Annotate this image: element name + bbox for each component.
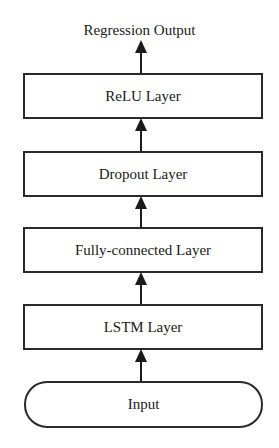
input-label: Input bbox=[128, 396, 160, 413]
arrow-up-icon bbox=[135, 40, 147, 73]
dropout-layer-label: Dropout Layer bbox=[99, 166, 188, 183]
relu-layer-label: ReLU Layer bbox=[105, 88, 180, 105]
arrow-up-icon bbox=[135, 196, 147, 227]
arrow-up-icon bbox=[135, 118, 147, 151]
input-node: Input bbox=[24, 381, 263, 428]
lstm-layer-box: LSTM Layer bbox=[23, 304, 263, 350]
fully-connected-layer-box: Fully-connected Layer bbox=[23, 227, 263, 273]
dropout-layer-box: Dropout Layer bbox=[23, 151, 263, 197]
fully-connected-layer-label: Fully-connected Layer bbox=[75, 242, 211, 259]
arrow-up-icon bbox=[135, 272, 147, 304]
lstm-layer-label: LSTM Layer bbox=[104, 319, 183, 336]
relu-layer-box: ReLU Layer bbox=[23, 73, 263, 119]
output-label: Regression Output bbox=[0, 21, 279, 39]
arrow-up-icon bbox=[135, 349, 147, 381]
